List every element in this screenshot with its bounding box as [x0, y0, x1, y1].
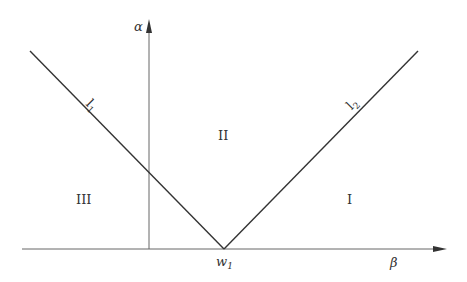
diagram-svg	[0, 0, 467, 282]
line-l1	[30, 51, 224, 249]
alpha-axis-arrow-icon	[146, 19, 152, 33]
beta-axis-arrow-icon	[433, 246, 447, 252]
vertex-label-sub: 1	[227, 261, 233, 271]
diagram-canvas: α β w1 l1 l2 II III I	[0, 0, 467, 282]
line-l2	[224, 51, 418, 249]
vertex-label-main: w	[216, 254, 227, 269]
region-label-left: III	[76, 193, 91, 206]
alpha-label: α	[134, 20, 143, 33]
region-label-top: II	[218, 129, 228, 142]
beta-label: β	[390, 256, 398, 269]
vertex-label-w1: w1	[216, 255, 233, 271]
region-label-right: I	[347, 193, 352, 206]
